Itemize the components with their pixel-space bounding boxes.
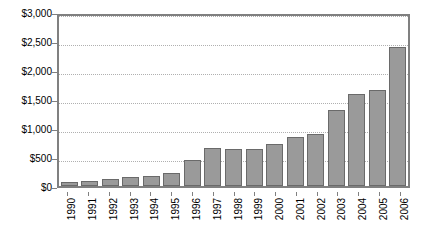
y-axis-tick-label: $3,000: [0, 9, 52, 19]
bar: [61, 182, 78, 186]
bar: [287, 137, 304, 186]
bar-slot: [305, 16, 326, 186]
bar: [184, 160, 201, 186]
bar-series: [59, 16, 408, 186]
x-axis-tick-mark: [400, 192, 401, 196]
x-axis-tick-mark: [130, 192, 131, 196]
bar: [328, 110, 345, 186]
bar: [307, 134, 324, 186]
x-axis-tick-label: 2005: [379, 198, 389, 220]
bar: [122, 177, 139, 186]
x-axis-tick-mark: [88, 192, 89, 196]
x-axis-tick-label: 1993: [130, 198, 140, 220]
x-axis-tick-label: 1992: [109, 198, 119, 220]
x-axis-tick-label: 1995: [171, 198, 181, 220]
x-axis-slot: 2002: [306, 192, 327, 235]
bar: [81, 181, 98, 187]
x-axis-tick-label: 2000: [275, 198, 285, 220]
x-axis-slot: 2005: [368, 192, 389, 235]
x-axis-slot: 1990: [57, 192, 78, 235]
x-axis-tick-label: 2001: [296, 198, 306, 220]
bar-slot: [121, 16, 142, 186]
y-axis-tick-label: $1,500: [0, 96, 52, 106]
x-axis-slot: 1996: [182, 192, 203, 235]
x-axis-slot: 1999: [244, 192, 265, 235]
bar: [143, 176, 160, 186]
x-axis-tick-label: 2004: [358, 198, 368, 220]
bar-slot: [223, 16, 244, 186]
bar-chart: $0$500$1,000$1,500$2,000$2,500$3,000 199…: [0, 0, 422, 235]
x-axis-tick-mark: [296, 192, 297, 196]
x-axis-slot: 2000: [265, 192, 286, 235]
bar-slot: [80, 16, 101, 186]
y-axis-tick-label: $1,000: [0, 125, 52, 135]
bar: [225, 149, 242, 186]
x-axis-tick-mark: [379, 192, 380, 196]
x-axis-tick-mark: [275, 192, 276, 196]
x-axis-tick-label: 2003: [337, 198, 347, 220]
x-axis-slot: 2001: [285, 192, 306, 235]
bar-slot: [203, 16, 224, 186]
bar: [204, 148, 221, 186]
plot-area: [57, 14, 410, 188]
x-axis-tick-mark: [213, 192, 214, 196]
x-axis-slot: 1998: [223, 192, 244, 235]
x-axis-slot: 1991: [78, 192, 99, 235]
x-axis-slot: 2003: [327, 192, 348, 235]
bar-slot: [100, 16, 121, 186]
y-axis-tick-label: $2,500: [0, 38, 52, 48]
bar-slot: [244, 16, 265, 186]
bar-slot: [141, 16, 162, 186]
x-axis-tick-label: 1997: [213, 198, 223, 220]
x-axis-tick-mark: [337, 192, 338, 196]
bar: [246, 149, 263, 186]
x-axis-tick-mark: [317, 192, 318, 196]
x-axis-tick-label: 1991: [88, 198, 98, 220]
bar: [266, 144, 283, 186]
x-axis-tick-label: 1999: [254, 198, 264, 220]
y-axis-tick-mark: [52, 188, 57, 189]
bar: [348, 94, 365, 186]
bar-slot: [162, 16, 183, 186]
x-axis-tick-mark: [67, 192, 68, 196]
bar-slot: [388, 16, 409, 186]
bar-slot: [367, 16, 388, 186]
x-axis-slot: 1997: [202, 192, 223, 235]
bar-slot: [182, 16, 203, 186]
bar-slot: [59, 16, 80, 186]
x-axis-tick-label: 2002: [317, 198, 327, 220]
x-axis-slot: 1995: [161, 192, 182, 235]
bar-slot: [326, 16, 347, 186]
bar: [389, 47, 406, 186]
bar: [163, 173, 180, 186]
bar: [369, 90, 386, 186]
x-axis-tick-mark: [254, 192, 255, 196]
y-axis-tick-label: $500: [0, 154, 52, 164]
x-axis-slot: 2006: [389, 192, 410, 235]
x-axis-tick-label: 1998: [234, 198, 244, 220]
x-axis-slot: 1993: [119, 192, 140, 235]
x-axis-tick-mark: [234, 192, 235, 196]
x-axis-tick-label: 1990: [67, 198, 77, 220]
x-axis-tick-mark: [109, 192, 110, 196]
y-axis-tick-label: $2,000: [0, 67, 52, 77]
x-axis: 1990199119921993199419951996199719981999…: [57, 192, 410, 235]
x-axis-tick-mark: [171, 192, 172, 196]
x-axis-tick-label: 2006: [400, 198, 410, 220]
x-axis-tick-label: 1994: [150, 198, 160, 220]
x-axis-tick-label: 1996: [192, 198, 202, 220]
x-axis-slot: 2004: [348, 192, 369, 235]
bar-slot: [285, 16, 306, 186]
y-axis: $0$500$1,000$1,500$2,000$2,500$3,000: [0, 0, 52, 235]
x-axis-tick-mark: [358, 192, 359, 196]
x-axis-tick-mark: [192, 192, 193, 196]
bar-slot: [264, 16, 285, 186]
x-axis-tick-mark: [150, 192, 151, 196]
bar-slot: [346, 16, 367, 186]
x-axis-slot: 1992: [99, 192, 120, 235]
y-axis-tick-label: $0: [0, 183, 52, 193]
bar: [102, 179, 119, 186]
x-axis-slot: 1994: [140, 192, 161, 235]
